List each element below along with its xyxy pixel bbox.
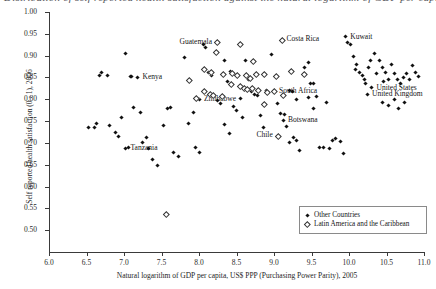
y-tick-label: 0.60 xyxy=(0,183,44,191)
x-tick xyxy=(162,252,163,256)
data-point xyxy=(295,138,299,142)
data-point xyxy=(203,46,207,50)
data-point-label: Guatemala xyxy=(0,38,212,46)
data-point xyxy=(382,80,386,84)
data-point xyxy=(209,69,213,73)
data-point xyxy=(290,89,294,93)
data-point xyxy=(302,72,306,76)
data-point xyxy=(119,116,123,120)
data-point xyxy=(262,71,266,75)
data-point xyxy=(244,58,248,62)
data-point xyxy=(281,118,285,122)
data-point xyxy=(94,121,98,125)
data-point xyxy=(107,123,111,127)
data-point xyxy=(377,59,381,63)
data-point xyxy=(230,70,234,74)
data-point xyxy=(287,141,291,145)
data-point xyxy=(403,101,407,105)
data-point xyxy=(235,73,239,77)
data-point xyxy=(283,112,287,116)
x-tick xyxy=(199,252,200,256)
y-tick-label: 0.55 xyxy=(0,204,44,212)
scatter-plot-figure: Distribution of self reported health sat… xyxy=(0,0,436,289)
data-point xyxy=(367,66,371,70)
data-point xyxy=(353,68,357,72)
x-tick xyxy=(424,252,425,256)
y-tick-label: 0.50 xyxy=(0,226,44,234)
figure-title: Distribution of self reported health sat… xyxy=(0,0,436,5)
data-point xyxy=(262,126,266,130)
data-point xyxy=(298,148,302,152)
data-point xyxy=(281,92,285,96)
x-tick-label: 7.0 xyxy=(104,258,144,267)
data-point xyxy=(221,72,225,76)
data-point xyxy=(235,109,239,113)
data-point xyxy=(256,94,260,98)
data-point xyxy=(272,89,276,93)
data-point xyxy=(274,73,278,77)
data-point xyxy=(314,95,318,99)
data-point xyxy=(311,82,315,86)
data-point xyxy=(365,92,369,96)
data-point xyxy=(341,151,345,155)
data-point xyxy=(241,116,245,120)
x-tick-label: 8.5 xyxy=(217,258,257,267)
data-point xyxy=(244,73,248,77)
data-point xyxy=(202,89,206,93)
data-point xyxy=(284,124,288,128)
data-point xyxy=(328,146,332,150)
data-point xyxy=(265,89,269,93)
y-tick-label: 1.00 xyxy=(0,8,44,16)
data-point xyxy=(392,71,396,75)
y-tick-label: 0.75 xyxy=(0,117,44,125)
data-point xyxy=(311,106,315,110)
data-point xyxy=(100,70,104,74)
data-point xyxy=(343,35,347,39)
data-point xyxy=(322,145,326,149)
data-point xyxy=(176,155,180,159)
data-point xyxy=(398,82,402,86)
data-point xyxy=(136,75,140,79)
data-point xyxy=(280,37,284,41)
data-point xyxy=(295,97,299,101)
data-point xyxy=(262,102,266,106)
data-point xyxy=(202,67,206,71)
data-point xyxy=(215,40,219,44)
x-tick-label: 9.5 xyxy=(292,258,332,267)
data-point-label: Botswana xyxy=(288,116,318,124)
data-point xyxy=(146,146,150,150)
data-point xyxy=(155,164,159,168)
x-tick xyxy=(237,252,238,256)
x-tick xyxy=(312,252,313,256)
data-point xyxy=(191,110,195,114)
data-point xyxy=(386,103,390,107)
data-point xyxy=(124,51,128,55)
data-point xyxy=(374,71,378,75)
data-point xyxy=(401,75,405,79)
data-point xyxy=(259,114,263,118)
x-tick xyxy=(387,252,388,256)
y-tick-label: 0.65 xyxy=(0,161,44,169)
data-point xyxy=(389,62,393,66)
data-point xyxy=(275,102,279,106)
data-point xyxy=(223,123,227,127)
x-tick-label: 11.0 xyxy=(404,258,436,267)
data-point xyxy=(218,102,222,106)
data-point xyxy=(381,101,385,105)
data-point xyxy=(392,97,396,101)
data-point xyxy=(182,56,186,60)
data-point xyxy=(373,51,377,55)
data-point-label: Tanzania xyxy=(131,144,158,152)
y-tick-label: 0.90 xyxy=(0,52,44,60)
data-point xyxy=(368,58,372,62)
data-point xyxy=(256,88,260,92)
x-tick-label: 7.5 xyxy=(142,258,182,267)
data-point xyxy=(289,69,293,73)
legend-label: Latin America and the Caribbean xyxy=(314,220,409,229)
data-point xyxy=(307,60,311,64)
open-diamond-icon xyxy=(304,221,311,228)
data-point xyxy=(164,212,168,216)
data-point xyxy=(364,82,368,86)
y-tick-label: 0.85 xyxy=(0,73,44,81)
legend-label: Other Countries xyxy=(314,211,360,220)
